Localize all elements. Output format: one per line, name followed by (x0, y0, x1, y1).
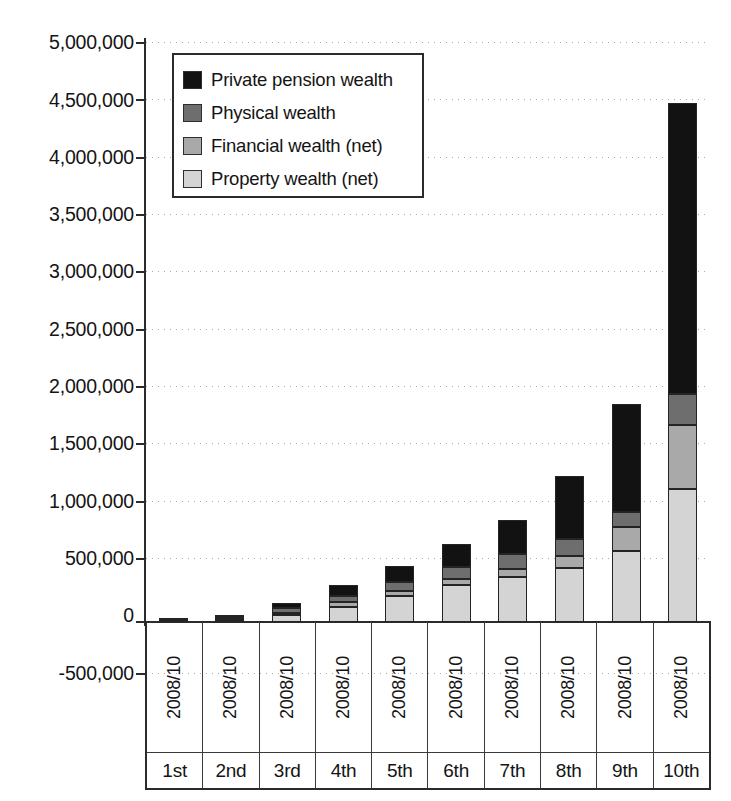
x-axis-column-1st: 2008/101st (147, 622, 203, 788)
y-axis-labels: 5,000,000 4,500,000 4,000,000 3,500,000 … (0, 0, 134, 801)
x-axis-period-cell: 2008/10 (316, 622, 371, 753)
x-axis-period-cell: 2008/10 (203, 622, 258, 753)
bar-segment-pension (385, 566, 414, 582)
x-axis-period-cell: 2008/10 (597, 622, 652, 753)
bar-segment-physical (385, 582, 414, 591)
x-axis-period-label: 2008/10 (671, 656, 692, 719)
legend-item-private-pension-wealth: Private pension wealth (183, 63, 422, 96)
bar-segment-pension (612, 404, 641, 512)
bar-segment-pension (555, 476, 584, 539)
x-axis-decile-cell: 1st (147, 753, 202, 788)
legend-label: Financial wealth (net) (211, 135, 382, 157)
bar-5th (385, 566, 414, 622)
legend-item-property-wealth-net: Property wealth (net) (183, 162, 422, 195)
bar-3rd (272, 603, 301, 622)
bar-9th (612, 404, 641, 622)
x-axis-period-label: 2008/10 (502, 656, 523, 719)
bar-segment-property (442, 585, 471, 622)
bar-segment-financial (555, 556, 584, 568)
x-axis-column-10th: 2008/1010th (654, 622, 709, 788)
bar-segment-pension (272, 603, 301, 607)
bar-segment-property (498, 577, 527, 622)
x-axis-column-6th: 2008/106th (428, 622, 484, 788)
x-axis-column-7th: 2008/107th (485, 622, 541, 788)
bar-segment-physical (272, 608, 301, 613)
x-axis-period-label: 2008/10 (389, 656, 410, 719)
bar-segment-property (555, 568, 584, 622)
x-axis-period-cell: 2008/10 (541, 622, 596, 753)
bar-segment-physical (555, 539, 584, 556)
bar-segment-physical (668, 394, 697, 425)
y-tick-label: 1,000,000 (12, 490, 134, 513)
y-tick-label: 0 (12, 604, 134, 627)
x-axis-decile-label: 7th (500, 760, 526, 782)
y-tick-label: 3,000,000 (12, 260, 134, 283)
y-tick-label: 2,000,000 (12, 375, 134, 398)
x-axis-decile-cell: 5th (372, 753, 427, 788)
x-axis-period-cell: 2008/10 (372, 622, 427, 753)
x-axis-period-cell: 2008/10 (428, 622, 483, 753)
bar-segment-property (612, 551, 641, 622)
x-axis-decile-label: 5th (387, 760, 413, 782)
x-axis-period-label: 2008/10 (220, 656, 241, 719)
x-axis-period-cell: 2008/10 (485, 622, 540, 753)
x-axis-decile-cell: 6th (428, 753, 483, 788)
x-axis-period-cell: 2008/10 (147, 622, 202, 753)
bar-8th (555, 476, 584, 622)
y-tick-label: 500,000 (12, 547, 134, 570)
x-axis-decile-label: 6th (443, 760, 469, 782)
x-axis-decile-cell: 9th (597, 753, 652, 788)
x-axis-column-5th: 2008/105th (372, 622, 428, 788)
bar-segment-financial (385, 591, 414, 596)
legend-swatch-icon (183, 71, 202, 89)
bar-segment-property (329, 607, 358, 622)
legend-label: Physical wealth (211, 102, 336, 124)
x-axis-decile-label: 8th (556, 760, 582, 782)
x-axis-period-label: 2008/10 (558, 656, 579, 719)
bar-4th (329, 585, 358, 622)
bar-segment-pension (159, 618, 188, 620)
bar-6th (442, 544, 471, 622)
legend-item-physical-wealth: Physical wealth (183, 96, 422, 129)
x-axis-decile-label: 10th (663, 760, 699, 782)
bar-segment-financial (498, 569, 527, 576)
bar-segment-physical (612, 512, 641, 527)
bar-10th (668, 103, 697, 622)
x-axis-period-label: 2008/10 (446, 656, 467, 719)
bar-segment-physical (215, 617, 244, 619)
bar-segment-physical (498, 554, 527, 569)
bar-segment-financial (612, 527, 641, 551)
y-tick-label: -500,000 (12, 662, 134, 685)
bar-segment-physical (329, 596, 358, 602)
y-tick-label: 4,000,000 (12, 146, 134, 169)
bar-7th (498, 520, 527, 622)
legend-item-financial-wealth-net: Financial wealth (net) (183, 129, 422, 162)
x-axis-decile-cell: 4th (316, 753, 371, 788)
bar-segment-property (668, 489, 697, 622)
bar-segment-physical (442, 567, 471, 579)
x-axis-column-9th: 2008/109th (597, 622, 653, 788)
x-axis-decile-cell: 2nd (203, 753, 258, 788)
bar-segment-pension (442, 544, 471, 567)
bar-segment-pension (498, 520, 527, 554)
bar-segment-financial (329, 602, 358, 607)
bar-segment-pension (329, 585, 358, 596)
y-tick-label: 5,000,000 (12, 31, 134, 54)
y-tick-label: 3,500,000 (12, 203, 134, 226)
chart-figure: 5,000,000 4,500,000 4,000,000 3,500,000 … (0, 0, 731, 801)
legend-swatch-icon (183, 137, 202, 155)
x-axis-decile-cell: 10th (654, 753, 709, 788)
x-axis-column-3rd: 2008/103rd (260, 622, 316, 788)
bar-segment-property (272, 615, 301, 622)
x-axis-decile-cell: 8th (541, 753, 596, 788)
legend-label: Property wealth (net) (211, 168, 379, 190)
bar-segment-financial (442, 579, 471, 585)
x-axis-decile-label: 4th (331, 760, 357, 782)
legend-label: Private pension wealth (211, 69, 393, 91)
x-axis-period-label: 2008/10 (164, 656, 185, 719)
x-axis-decile-label: 2nd (215, 760, 246, 782)
legend-swatch-icon (183, 104, 202, 122)
x-axis-decile-cell: 7th (485, 753, 540, 788)
y-tick-label: 2,500,000 (12, 318, 134, 341)
bar-segment-financial (668, 425, 697, 489)
